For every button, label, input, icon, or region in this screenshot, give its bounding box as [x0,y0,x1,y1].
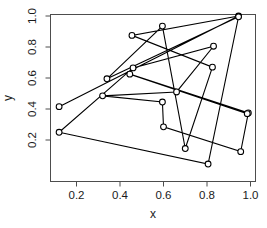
data-point [211,43,217,49]
data-point [104,76,110,82]
x-tick-label: 0.8 [199,189,215,201]
plot-root: 0.2 0.4 0.6 0.8 1.0 0.2 0.4 0.6 0.8 1.0 … [0,0,267,228]
y-tick-label: 1.0 [26,8,38,24]
x-tick-label: 0.2 [69,189,85,201]
data-point [182,146,188,152]
data-point [56,129,62,135]
y-tick-label: 0.6 [26,70,38,86]
x-tick-label: 0.6 [156,189,172,201]
data-point [129,32,135,38]
data-point [236,14,242,20]
y-tick-label: 0.8 [26,39,38,55]
x-tick-label: 0.4 [112,189,129,201]
data-point [161,124,167,130]
data-point [160,23,166,29]
y-tick-label: 0.2 [26,132,38,148]
data-point [238,149,244,155]
data-point [210,64,216,70]
data-point [160,99,166,105]
data-point [174,89,180,95]
x-axis-title: x [150,207,156,221]
scatter-line-chart: 0.2 0.4 0.6 0.8 1.0 0.2 0.4 0.6 0.8 1.0 … [0,0,267,228]
data-point [130,65,136,71]
data-point [100,93,106,99]
data-point [244,111,250,117]
y-axis-title: y [1,95,15,101]
y-tick-label: 0.4 [26,100,38,117]
data-point [56,104,62,110]
data-point [205,161,211,167]
data-point [127,71,133,77]
x-tick-label: 1.0 [243,189,259,201]
